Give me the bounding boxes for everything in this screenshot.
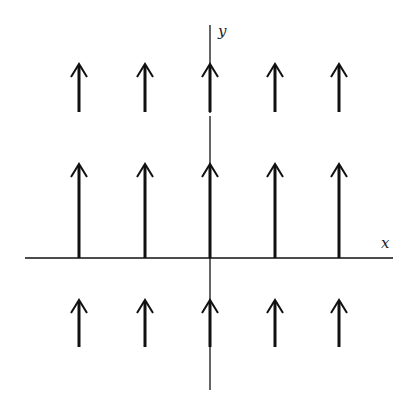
arrow-up-icon (137, 164, 153, 258)
y-axis-label: y (217, 22, 227, 40)
arrow-up-icon (331, 300, 347, 347)
arrow-up-icon (202, 300, 218, 347)
arrow-up-icon (267, 64, 283, 112)
arrow-up-icon (71, 300, 87, 347)
x-axis-label: x (381, 234, 390, 252)
arrow-up-icon (267, 300, 283, 347)
arrow-up-icon (267, 164, 283, 258)
arrow-up-icon (71, 64, 87, 112)
arrow-up-icon (71, 164, 87, 258)
arrow-up-icon (331, 164, 347, 258)
arrow-up-icon (137, 64, 153, 112)
arrow-up-icon (137, 300, 153, 347)
arrow-up-icon (202, 164, 218, 258)
vector-field-diagram: y x (0, 0, 413, 405)
arrow-up-icon (331, 64, 347, 112)
arrow-up-icon (202, 64, 218, 112)
arrow-field (71, 64, 347, 347)
